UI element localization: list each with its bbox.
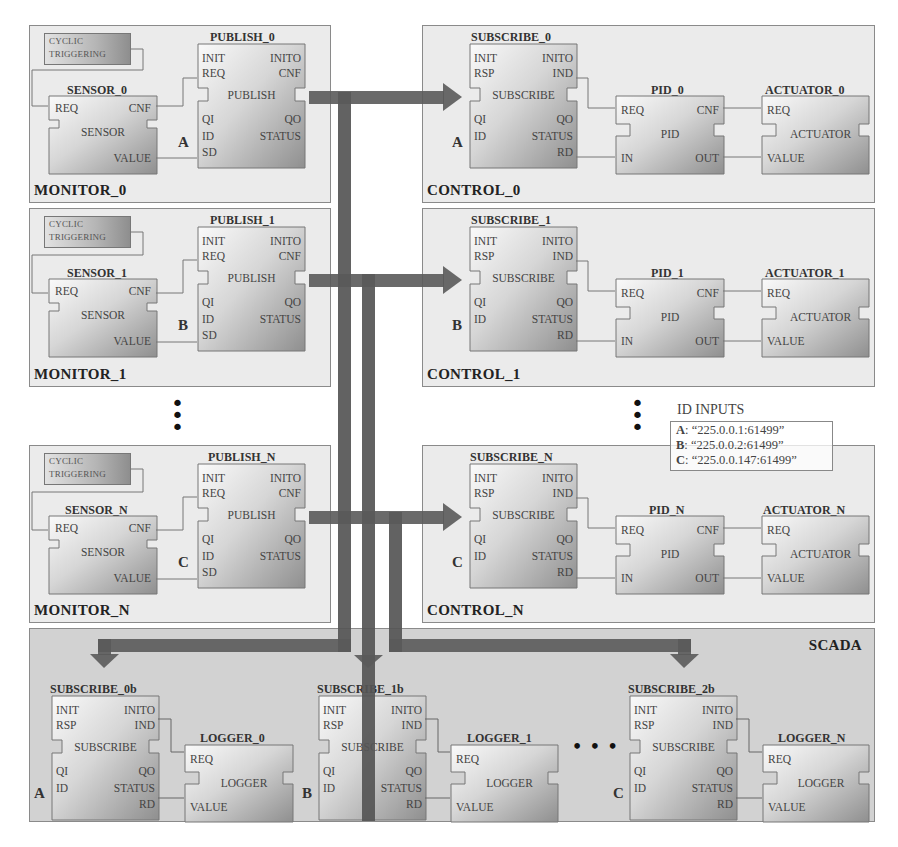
port-in: IN: [621, 572, 633, 585]
actuator-block[interactable]: REQ ACTUATOR VALUE: [762, 516, 869, 594]
logger-block[interactable]: REQ LOGGER VALUE: [451, 745, 558, 822]
port-req: REQ: [621, 524, 644, 537]
subscribe-block[interactable]: INIT INITO RSP IND SUBSCRIBE QI QO ID ST…: [52, 696, 159, 820]
port-id: ID: [202, 550, 214, 563]
port-sd: SD: [202, 566, 217, 579]
subscribe-title: SUBSCRIBE_1b: [317, 682, 404, 697]
actuator-block[interactable]: REQ ACTUATOR VALUE: [762, 96, 869, 174]
id-input-label: A: [34, 785, 45, 802]
logger-block[interactable]: REQ LOGGER VALUE: [763, 745, 869, 822]
monitor-label: MONITOR_N: [34, 602, 130, 619]
port-qo: QO: [284, 533, 301, 546]
port-req: REQ: [202, 250, 225, 263]
logger-type: LOGGER: [461, 777, 558, 790]
control-label: CONTROL_0: [427, 182, 521, 199]
port-rd: RD: [406, 798, 422, 811]
monitor-panel-1: CYCLIC TRIGGERING SENSOR_1 REQ CNF SENSO…: [29, 208, 331, 387]
port-cnf: CNF: [129, 102, 151, 115]
port-init: INIT: [56, 704, 79, 717]
control-label: CONTROL_N: [427, 602, 524, 619]
port-value: VALUE: [767, 335, 804, 348]
port-id: ID: [474, 550, 486, 563]
subscribe-type: SUBSCRIBE: [52, 741, 159, 754]
pid-block[interactable]: REQ CNF PID IN OUT: [616, 516, 724, 594]
sensor-block[interactable]: REQ CNF SENSOR VALUE: [49, 279, 157, 357]
port-status: STATUS: [260, 130, 301, 143]
port-ind: IND: [135, 719, 155, 732]
port-value: VALUE: [768, 801, 805, 814]
port-init: INIT: [202, 235, 225, 248]
port-value: VALUE: [767, 152, 804, 165]
publish-block[interactable]: INIT INITO REQ CNF PUBLISH QI QO ID STAT…: [198, 227, 305, 351]
trunk-a: [338, 92, 351, 652]
cyclic-triggering-block[interactable]: CYCLIC TRIGGERING: [44, 453, 131, 485]
port-inito: INITO: [270, 235, 301, 248]
publish-title: PUBLISH_N: [208, 450, 275, 465]
id-entry-c: C: “225.0.0.147:61499”: [676, 453, 827, 468]
actuator-block[interactable]: REQ ACTUATOR VALUE: [762, 279, 869, 357]
subscribe-type: SUBSCRIBE: [470, 89, 577, 102]
scada-panel: SCADA SUBSCRIBE_0b INIT INITO RSP IND SU…: [29, 628, 875, 822]
triggering-label: TRIGGERING: [49, 468, 126, 481]
port-req: REQ: [621, 287, 644, 300]
port-inito: INITO: [124, 704, 155, 717]
port-status: STATUS: [114, 782, 155, 795]
id-entry-b: B: “225.0.0.2:61499”: [676, 438, 827, 453]
cyclic-label: CYCLIC: [49, 455, 126, 468]
port-in: IN: [621, 152, 633, 165]
port-req: REQ: [202, 67, 225, 80]
port-qi: QI: [474, 533, 486, 546]
cyclic-label: CYCLIC: [49, 35, 126, 48]
port-qo: QO: [556, 113, 573, 126]
port-status: STATUS: [532, 130, 573, 143]
pid-type: PID: [616, 311, 724, 324]
subscribe-title: SUBSCRIBE_1: [471, 213, 551, 228]
logger-block[interactable]: REQ LOGGER VALUE: [185, 745, 293, 822]
port-rsp: RSP: [56, 719, 76, 732]
pid-block[interactable]: REQ CNF PID IN OUT: [616, 96, 724, 174]
port-rd: RD: [557, 146, 573, 159]
sensor-block[interactable]: REQ CNF SENSOR VALUE: [49, 96, 157, 174]
publish-type: PUBLISH: [198, 509, 305, 522]
control-panel-1: SUBSCRIBE_1 INIT INITO RSP IND SUBSCRIBE…: [422, 208, 875, 387]
sensor-block[interactable]: REQ CNF SENSOR VALUE: [49, 516, 157, 594]
port-qo: QO: [405, 765, 422, 778]
sensor-type: SENSOR: [49, 309, 157, 322]
port-qo: QO: [556, 533, 573, 546]
port-sd: SD: [202, 146, 217, 159]
subscribe-block[interactable]: INIT INITO RSP IND SUBSCRIBE QI QO ID ST…: [470, 464, 577, 588]
port-req: REQ: [768, 753, 791, 766]
port-cnf: CNF: [279, 250, 301, 263]
subscribe-block[interactable]: INIT INITO RSP IND SUBSCRIBE QI QO ID ST…: [470, 44, 577, 168]
subscribe-block[interactable]: INIT INITO RSP IND SUBSCRIBE QI QO ID ST…: [630, 696, 737, 820]
triggering-label: TRIGGERING: [49, 231, 126, 244]
port-value: VALUE: [767, 572, 804, 585]
port-inito: INITO: [702, 704, 733, 717]
port-req: REQ: [55, 285, 78, 298]
publish-block[interactable]: INIT INITO REQ CNF PUBLISH QI QO ID STAT…: [198, 464, 305, 588]
port-value: VALUE: [114, 335, 151, 348]
port-qi: QI: [202, 296, 214, 309]
port-in: IN: [621, 335, 633, 348]
subscribe-block[interactable]: INIT INITO RSP IND SUBSCRIBE QI QO ID ST…: [470, 227, 577, 351]
port-status: STATUS: [381, 782, 422, 795]
cyclic-triggering-block[interactable]: CYCLIC TRIGGERING: [44, 33, 131, 65]
cyclic-triggering-block[interactable]: CYCLIC TRIGGERING: [44, 216, 131, 248]
port-qi: QI: [634, 765, 646, 778]
port-out: OUT: [695, 335, 719, 348]
monitor-panel-n: CYCLIC TRIGGERING SENSOR_N REQ CNF SENSO…: [29, 445, 331, 623]
port-inito: INITO: [391, 704, 422, 717]
port-inito: INITO: [542, 52, 573, 65]
publish-block[interactable]: INIT INITO REQ CNF PUBLISH QI QO ID STAT…: [198, 44, 305, 168]
port-value: VALUE: [190, 801, 227, 814]
pid-block[interactable]: REQ CNF PID IN OUT: [616, 279, 724, 357]
port-id: ID: [474, 313, 486, 326]
port-rsp: RSP: [323, 719, 343, 732]
horizontal-ellipsis: • • •: [572, 737, 619, 756]
subscribe-title: SUBSCRIBE_0b: [50, 682, 137, 697]
subscribe-block[interactable]: INIT INITO RSP IND SUBSCRIBE QI QO ID ST…: [319, 696, 426, 820]
port-status: STATUS: [260, 313, 301, 326]
port-value: VALUE: [456, 801, 493, 814]
port-cnf: CNF: [279, 67, 301, 80]
port-req: REQ: [456, 753, 479, 766]
